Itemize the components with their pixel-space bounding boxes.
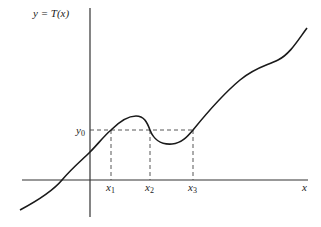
- y0-label-sub: 0: [81, 129, 85, 138]
- x1-label: x1: [105, 181, 115, 195]
- x-axis-label: x: [301, 181, 307, 193]
- function-graph: y = T(x) x y0 x1 x2 x3: [0, 0, 321, 227]
- y0-label: y0: [75, 124, 85, 138]
- x1-label-sub: 1: [111, 186, 115, 195]
- x3-label-sub: 3: [193, 186, 197, 195]
- x2-label-sub: 2: [150, 186, 154, 195]
- function-curve: [20, 28, 307, 210]
- x3-label: x3: [187, 181, 197, 195]
- x2-label: x2: [144, 181, 154, 195]
- function-title-label: y = T(x): [32, 7, 69, 20]
